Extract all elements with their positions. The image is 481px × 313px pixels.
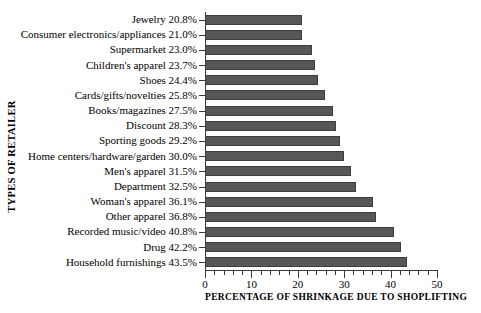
x-axis-major-tick bbox=[437, 271, 438, 278]
x-axis-minor-tick bbox=[372, 271, 373, 275]
bar-row: Men's apparel 31.5% bbox=[205, 164, 437, 179]
x-axis-minor-tick bbox=[270, 271, 271, 275]
bar-row: Jewelry 20.8% bbox=[205, 12, 437, 27]
bar bbox=[205, 151, 344, 161]
x-axis-minor-tick bbox=[428, 271, 429, 275]
plot-area: Jewelry 20.8%Consumer electronics/applia… bbox=[205, 12, 437, 270]
bar bbox=[205, 15, 302, 25]
x-axis-major-tick bbox=[205, 271, 206, 278]
x-axis-minor-tick bbox=[326, 271, 327, 275]
x-axis-minor-tick bbox=[233, 271, 234, 275]
bar-row: Recorded music/video 40.8% bbox=[205, 224, 437, 239]
category-label: Household furnishings 43.5% bbox=[66, 255, 197, 270]
bar bbox=[205, 212, 376, 222]
x-axis-major-tick bbox=[251, 271, 252, 278]
x-axis-tick-label: 10 bbox=[246, 278, 257, 290]
x-axis-minor-tick bbox=[381, 271, 382, 275]
x-axis-tick-label: 40 bbox=[385, 278, 396, 290]
bar-row: Household furnishings 43.5% bbox=[205, 255, 437, 270]
x-axis-minor-tick bbox=[242, 271, 243, 275]
x-axis-tick-label: 50 bbox=[432, 278, 443, 290]
x-axis-minor-tick bbox=[289, 271, 290, 275]
bar bbox=[205, 60, 315, 70]
bar-row: Home centers/hardware/garden 30.0% bbox=[205, 149, 437, 164]
x-axis-minor-tick bbox=[261, 271, 262, 275]
x-axis-tick-label: 0 bbox=[202, 278, 208, 290]
category-label: Department 32.5% bbox=[114, 179, 197, 194]
bar-row: Sporting goods 29.2% bbox=[205, 133, 437, 148]
bar-row: Children's apparel 23.7% bbox=[205, 58, 437, 73]
x-axis-minor-tick bbox=[307, 271, 308, 275]
bar-row: Consumer electronics/appliances 21.0% bbox=[205, 27, 437, 42]
x-axis-minor-tick bbox=[409, 271, 410, 275]
x-axis-minor-tick bbox=[400, 271, 401, 275]
x-axis-minor-tick bbox=[316, 271, 317, 275]
category-label: Books/magazines 27.5% bbox=[88, 103, 197, 118]
bar-row: Books/magazines 27.5% bbox=[205, 103, 437, 118]
x-axis-major-tick bbox=[391, 271, 392, 278]
bar bbox=[205, 106, 333, 116]
category-label: Sporting goods 29.2% bbox=[99, 133, 197, 148]
bar bbox=[205, 197, 373, 207]
category-label: Shoes 24.4% bbox=[140, 73, 197, 88]
bar-row: Cards/gifts/novelties 25.8% bbox=[205, 88, 437, 103]
category-label: Supermarket 23.0% bbox=[110, 42, 197, 57]
x-axis-major-tick bbox=[344, 271, 345, 278]
bar-chart: TYPES OF RETAILER Jewelry 20.8%Consumer … bbox=[0, 0, 481, 313]
x-axis-minor-tick bbox=[335, 271, 336, 275]
category-label: Men's apparel 31.5% bbox=[104, 164, 197, 179]
category-label: Drug 42.2% bbox=[143, 240, 197, 255]
category-label: Other apparel 36.8% bbox=[106, 209, 197, 224]
category-label: Discount 28.3% bbox=[126, 118, 197, 133]
x-axis-major-tick bbox=[298, 271, 299, 278]
bar bbox=[205, 90, 325, 100]
bar bbox=[205, 121, 336, 131]
x-axis-minor-tick bbox=[418, 271, 419, 275]
x-axis-title: PERCENTAGE OF SHRINKAGE DUE TO SHOPLIFTI… bbox=[205, 292, 438, 302]
x-axis-tick-label: 30 bbox=[339, 278, 350, 290]
bar bbox=[205, 136, 340, 146]
x-axis-minor-tick bbox=[363, 271, 364, 275]
bar bbox=[205, 75, 318, 85]
x-axis-line bbox=[205, 270, 438, 271]
category-label: Home centers/hardware/garden 30.0% bbox=[28, 149, 197, 164]
bar bbox=[205, 227, 394, 237]
bar bbox=[205, 242, 401, 252]
category-label: Recorded music/video 40.8% bbox=[67, 224, 197, 239]
bar bbox=[205, 182, 356, 192]
y-axis-title: TYPES OF RETAILER bbox=[0, 0, 22, 313]
x-axis-minor-tick bbox=[214, 271, 215, 275]
category-label: Consumer electronics/appliances 21.0% bbox=[21, 27, 197, 42]
category-label: Jewelry 20.8% bbox=[132, 12, 197, 27]
x-axis-minor-tick bbox=[353, 271, 354, 275]
bar-row: Other apparel 36.8% bbox=[205, 209, 437, 224]
x-axis-tick-label: 20 bbox=[292, 278, 303, 290]
category-label: Children's apparel 23.7% bbox=[86, 58, 197, 73]
bar bbox=[205, 45, 312, 55]
x-axis-minor-tick bbox=[279, 271, 280, 275]
bar-row: Drug 42.2% bbox=[205, 240, 437, 255]
bar-row: Department 32.5% bbox=[205, 179, 437, 194]
bar bbox=[205, 257, 407, 267]
bar bbox=[205, 30, 302, 40]
bar-row: Shoes 24.4% bbox=[205, 73, 437, 88]
category-label: Woman's apparel 36.1% bbox=[91, 194, 197, 209]
bar-row: Woman's apparel 36.1% bbox=[205, 194, 437, 209]
x-axis-minor-tick bbox=[224, 271, 225, 275]
category-label: Cards/gifts/novelties 25.8% bbox=[75, 88, 197, 103]
bar-row: Discount 28.3% bbox=[205, 118, 437, 133]
bar bbox=[205, 166, 351, 176]
bar-row: Supermarket 23.0% bbox=[205, 42, 437, 57]
